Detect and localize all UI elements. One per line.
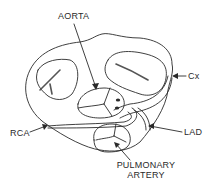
- cx-groove: [114, 76, 168, 110]
- heart-outline: [26, 34, 173, 151]
- rca-label: RCA: [10, 128, 30, 138]
- heart-cross-section-diagram: [0, 0, 222, 194]
- lad-label: LAD: [184, 127, 202, 137]
- aorta-cusp-2: [104, 88, 110, 104]
- pulmonary-cusp-3: [114, 136, 126, 142]
- aorta-arrowhead: [92, 83, 99, 90]
- tricuspid-valve-mark: [116, 64, 148, 80]
- pulmonary-artery-label: PULMONARY ARTERY: [116, 160, 176, 180]
- aorta-label: AORTA: [58, 11, 89, 21]
- pulmonary-cusp-2: [114, 124, 116, 136]
- left-chamber: [36, 59, 77, 99]
- cx-label: Cx: [188, 71, 199, 81]
- coronary-ostium-2: [115, 106, 119, 109]
- coronary-ostium-1: [116, 98, 120, 101]
- cx-arrowhead: [172, 73, 178, 79]
- aorta-cusp-1: [78, 104, 104, 108]
- lad-pointer: [150, 126, 182, 132]
- pulmonary-label-line1: PULMONARY: [116, 160, 176, 170]
- pulmonary-cusp-1: [96, 136, 114, 140]
- aorta-cusp-3: [104, 104, 112, 116]
- pulmonary-artery: [94, 124, 131, 152]
- aorta: [78, 88, 124, 118]
- pulmonary-label-line2: ARTERY: [116, 170, 176, 180]
- rca-vessel: [48, 112, 131, 126]
- mitral-valve-mark: [40, 70, 60, 94]
